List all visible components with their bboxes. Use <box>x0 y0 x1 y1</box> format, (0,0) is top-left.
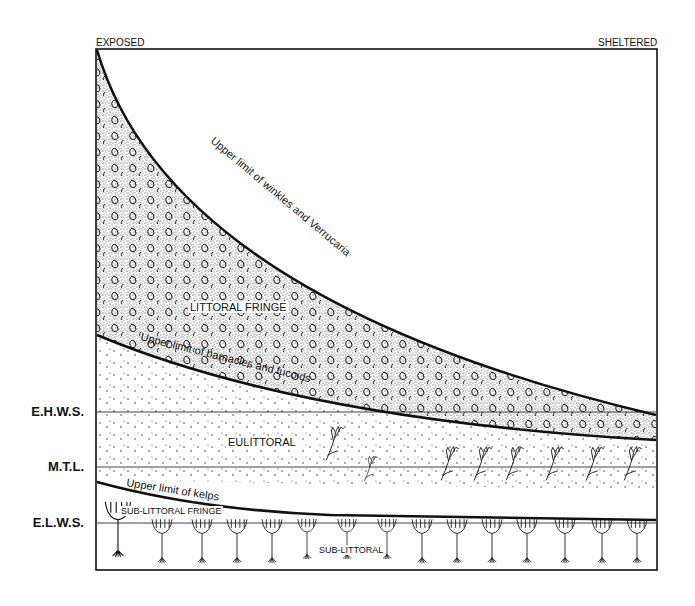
eulittoral-label: EULITTORAL <box>226 436 298 448</box>
mtl-level-label: M.T.L. <box>4 459 84 474</box>
shore-zonation-diagram: Upper limit of winkles and Verrucaria Up… <box>0 0 695 606</box>
exposed-label: EXPOSED <box>96 37 144 48</box>
ehws-level-label: E.H.W.S. <box>4 404 84 419</box>
elws-level-label: E.L.W.S. <box>4 515 84 530</box>
sheltered-label: SHELTERED <box>598 37 657 48</box>
littoral-fringe-label: LITTORAL FRINGE <box>188 301 289 313</box>
sub-littoral-label: SUB-LITTORAL <box>318 545 384 555</box>
sub-littoral-fringe-label: SUB-LITTORAL FRINGE <box>120 506 223 516</box>
